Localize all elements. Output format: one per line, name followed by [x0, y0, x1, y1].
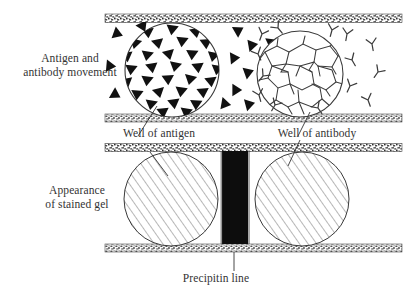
antibody-well-stained: [255, 152, 349, 246]
label-antigen-antibody-movement: Antigen and antibody movement: [10, 52, 130, 79]
precipitin-band: [222, 151, 248, 244]
antigen-well-stained: [124, 152, 218, 246]
gel-edge-band-top: [105, 14, 402, 23]
label-well-of-antigen: Well of antigen: [98, 127, 220, 141]
diagram-artwork: [0, 0, 406, 297]
immunodiffusion-diagram: Antigen and antibody movement Appearance…: [0, 0, 406, 297]
gel-edge-band-bottom-upper: [105, 144, 402, 152]
label-appearance-of-stained-gel: Appearance of stained gel: [22, 184, 132, 211]
movement-panel: [105, 14, 402, 136]
stained-gel-panel: [105, 140, 402, 271]
gel-edge-band-bottom-lower: [105, 244, 402, 252]
label-well-of-antibody: Well of antibody: [252, 127, 382, 141]
label-precipitin-line: Precipitin line: [160, 272, 272, 286]
